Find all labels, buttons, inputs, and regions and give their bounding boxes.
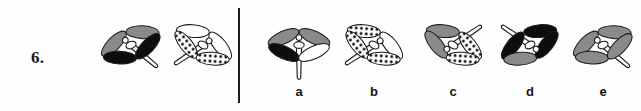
dragonfly-sample-2 <box>160 12 246 90</box>
option-label-e[interactable]: e <box>560 84 641 99</box>
option-label-b[interactable]: b <box>331 84 417 99</box>
option-label-c[interactable]: c <box>410 84 496 99</box>
option-label-a[interactable]: a <box>256 84 342 99</box>
dragonfly-option-a[interactable] <box>256 12 342 90</box>
question-number: 6. <box>31 48 44 68</box>
question-panel: 6. a b c d e <box>0 0 641 111</box>
dragonfly-option-b[interactable] <box>331 12 417 90</box>
dragonfly-option-c[interactable] <box>410 12 496 90</box>
dragonfly-option-e[interactable] <box>560 12 641 90</box>
section-divider <box>238 8 240 103</box>
